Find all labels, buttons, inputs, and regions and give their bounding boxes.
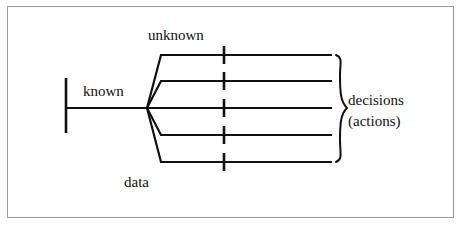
label-actions: (actions): [348, 114, 400, 129]
decisions-brace: [336, 55, 347, 162]
branch-group: [147, 55, 332, 162]
label-unknown: unknown: [148, 28, 204, 43]
label-data: data: [124, 175, 149, 190]
branch-2: [147, 81, 332, 108]
label-decisions: decisions: [348, 93, 404, 108]
branch-4: [147, 108, 332, 135]
label-known: known: [83, 84, 124, 99]
